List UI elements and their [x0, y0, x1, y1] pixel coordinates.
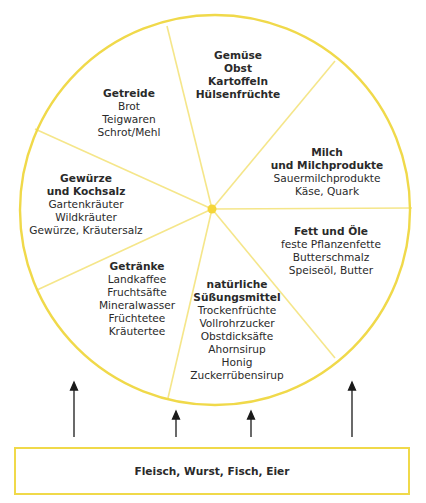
segment-fett: Fett und Öle feste Pflanzenfette Butters…	[281, 225, 381, 277]
base-box-meat-fish-eggs: Fleisch, Wurst, Fisch, Eier	[14, 447, 410, 495]
segment-suessungsmittel: natürliche Süßungsmittel Trockenfrüchte …	[190, 278, 284, 382]
segment-gewuerze: Gewürze und Kochsalz Gartenkräuter Wildk…	[29, 172, 142, 237]
center-dot	[208, 205, 217, 214]
arrows	[71, 382, 356, 437]
base-label: Fleisch, Wurst, Fisch, Eier	[134, 465, 289, 477]
segment-milch: Milch und Milchprodukte Sauermilchproduk…	[271, 146, 384, 198]
segment-gemuese: Gemüse Obst Kartoffeln Hülsenfrüchte	[196, 49, 281, 101]
segment-getraenke: Getränke Landkaffee Fruchtsäfte Mineralw…	[99, 260, 175, 338]
segment-getreide: Getreide Brot Teigwaren Schrot/Mehl	[98, 87, 161, 139]
